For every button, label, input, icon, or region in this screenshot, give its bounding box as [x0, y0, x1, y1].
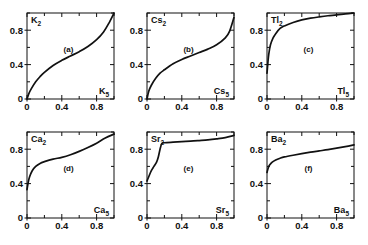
x-tick-label: 0.4 [175, 101, 189, 112]
x-tick-label: 0.8 [90, 101, 103, 112]
figure-panel-grid: 00.40.800.40.8K2K5(a)00.40.800.40.8Cs2Cs… [0, 0, 368, 245]
y-axis-label: Ba2 [271, 134, 287, 146]
x-axis-label: Ba5 [334, 205, 350, 217]
x-axis-label: Tl5 [337, 86, 349, 98]
x-axis-label: Cs5 [214, 86, 230, 98]
y-tick-label: 0 [258, 93, 263, 104]
y-tick-label: 0.8 [10, 144, 23, 155]
x-tick-label: 0.4 [55, 220, 69, 231]
x-tick-label: 0 [264, 101, 269, 112]
y-axis-label: Tl2 [271, 15, 283, 27]
x-tick-label: 0.8 [330, 220, 343, 231]
x-tick-label: 0 [264, 220, 269, 231]
x-tick-label: 0.4 [175, 220, 189, 231]
y-tick-label: 0 [258, 212, 263, 223]
y-axis-label: Cs2 [151, 15, 167, 27]
x-axis-label: K5 [99, 86, 110, 98]
y-tick-label: 0.8 [250, 25, 263, 36]
panel-tag: (a) [64, 45, 74, 54]
y-tick-label: 0.8 [10, 25, 23, 36]
x-tick-label: 0 [24, 101, 29, 112]
y-tick-label: 0 [18, 212, 23, 223]
y-tick-label: 0.8 [250, 144, 263, 155]
x-axis-label: Ca5 [94, 205, 110, 217]
x-tick-label: 0 [24, 220, 29, 231]
x-tick-label: 0.8 [90, 220, 103, 231]
x-tick-label: 0.8 [210, 220, 223, 231]
y-axis-label: K2 [31, 15, 42, 27]
y-tick-label: 0 [138, 93, 143, 104]
y-tick-label: 0.4 [130, 59, 144, 70]
chart-panel-a: 00.40.800.40.8K2K5(a) [2, 2, 122, 124]
x-tick-label: 0 [144, 220, 149, 231]
panel-tag: (b) [183, 45, 194, 54]
panel-tag: (d) [63, 164, 74, 173]
y-tick-label: 0.8 [130, 144, 143, 155]
y-axis-label: Ca2 [31, 134, 47, 146]
y-tick-label: 0.4 [250, 178, 264, 189]
chart-panel-c: 00.40.800.40.8Tl2Tl5(c) [242, 2, 362, 124]
chart-panel-e: 00.40.800.40.8Sr2Sr5(e) [122, 121, 242, 243]
chart-panel-b: 00.40.800.40.8Cs2Cs5(b) [122, 2, 242, 124]
y-tick-label: 0 [18, 93, 23, 104]
panel-tag: (f) [305, 164, 313, 173]
x-tick-label: 0.4 [295, 101, 309, 112]
chart-panel-f: 00.40.800.40.8Ba2Ba5(f) [242, 121, 362, 243]
x-tick-label: 0.4 [295, 220, 309, 231]
panel-tag: (e) [184, 164, 194, 173]
y-tick-label: 0 [138, 212, 143, 223]
y-tick-label: 0.4 [10, 178, 24, 189]
x-tick-label: 0.8 [330, 101, 343, 112]
y-tick-label: 0.4 [130, 178, 144, 189]
chart-panel-d: 00.40.800.40.8Ca2Ca5(d) [2, 121, 122, 243]
y-tick-label: 0.4 [250, 59, 264, 70]
panel-tag: (c) [304, 45, 314, 54]
y-tick-label: 0.4 [10, 59, 24, 70]
x-tick-label: 0.4 [55, 101, 69, 112]
y-tick-label: 0.8 [130, 25, 143, 36]
x-axis-label: Sr5 [216, 205, 230, 217]
x-tick-label: 0.8 [210, 101, 223, 112]
x-tick-label: 0 [144, 101, 149, 112]
